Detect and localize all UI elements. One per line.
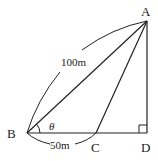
segment-ac [96, 21, 147, 133]
point-label-b: B [7, 126, 16, 141]
geometry-diagram: A B C D 100m 50m θ [0, 0, 158, 161]
measure-label-bc: 50m [50, 139, 70, 151]
measure-arc-ab-lower [27, 72, 60, 133]
measure-arc-ab-upper [82, 21, 147, 50]
angle-label-theta: θ [49, 120, 55, 132]
point-label-c: C [91, 140, 100, 155]
measure-arc-bc-left [27, 133, 50, 144]
point-label-a: A [141, 4, 151, 19]
point-label-d: D [141, 140, 150, 155]
right-angle-marker [139, 125, 147, 133]
segment-ab [27, 21, 147, 133]
angle-theta-arc [37, 124, 41, 133]
measure-label-ab: 100m [61, 56, 87, 68]
